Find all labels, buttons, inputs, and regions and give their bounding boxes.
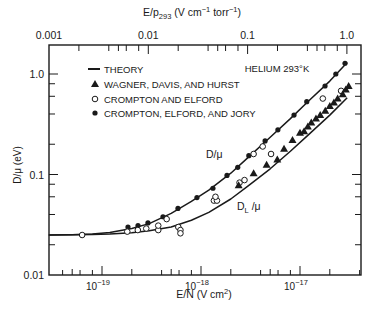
triangle-marker-icon [273,156,281,163]
open-circle-marker-icon [155,223,161,229]
legend-label: CROMPTON, ELFORD, AND JORY [104,108,256,119]
open-circle-marker-icon [135,227,141,233]
y-tick-label: 0.1 [29,169,44,181]
annotation-d-over-mu: D/μ [206,148,223,160]
y-tick-label: 1.0 [29,68,44,80]
y-tick-label: 0.01 [24,269,45,281]
triangle-marker-icon [280,145,288,152]
open-circle-marker-icon [143,226,149,232]
annotation-dl-over-mu: DL /μ [237,200,261,215]
chart-title: HELIUM 293°K [245,63,310,74]
filled-circle-marker-icon [194,195,199,200]
open-circle-marker-icon [213,194,219,200]
x-tick-label: 10−19 [86,278,110,292]
triangle-marker-icon [289,136,297,143]
legend: THEORYWAGNER, DAVIS, AND HURSTCROMPTON A… [88,64,256,119]
open-circle-marker-icon [178,230,184,236]
filled-circle-marker-icon [291,112,296,117]
triangle-marker-icon [263,161,271,168]
open-circle-marker-icon [79,232,85,238]
triangle-marker-icon [250,169,258,176]
filled-circle-marker-icon [322,83,327,88]
top-tick-label: 1.0 [340,29,355,41]
top-tick-label: 0.001 [36,29,62,41]
filled-circle-marker-icon [333,71,338,76]
y-tick-labels: 0.010.11.0 [24,68,45,281]
legend-label: WAGNER, DAVIS, AND HURST [104,79,240,90]
filled-circle-marker-icon [262,138,267,143]
open-circle-marker-icon [251,151,257,157]
open-circle-legend-icon [92,96,98,102]
top-tick-label: 0.01 [138,29,159,41]
filled-circle-marker-icon [210,186,215,191]
top-axis-title: E/p293 (V cm−1 torr−1) [143,5,241,21]
filled-circle-marker-icon [224,173,229,178]
filled-circle-marker-icon [145,220,150,225]
open-circle-marker-icon [268,151,274,157]
x-tick-label: 10−17 [284,278,308,292]
top-tick-labels: 0.0010.010.11.0 [36,29,354,41]
filled-circle-marker-icon [342,61,347,66]
legend-label: THEORY [104,64,144,75]
open-circle-marker-icon [242,177,248,183]
triangle-marker-icon [345,82,353,89]
filled-circle-marker-icon [175,206,180,211]
open-circle-marker-icon [124,229,130,235]
top-tick-label: 0.1 [240,29,255,41]
triangle-legend-icon [91,80,99,87]
chart-figure: E/p293 (V cm−1 torr−1) 0.0010.010.11.0 0… [0,0,380,315]
open-circle-marker-icon [320,96,326,102]
x-axis-title: E/N (V cm2) [176,287,232,300]
filled-circle-marker-icon [275,127,280,132]
legend-label: CROMPTON AND ELFORD [104,94,223,105]
open-circle-marker-icon [164,216,170,222]
filled-circle-marker-icon [235,165,240,170]
y-axis-title: D/μ (eV) [12,146,23,183]
open-circle-marker-icon [260,144,266,150]
filled-circle-marker-icon [304,99,309,104]
filled-circle-legend-icon [92,110,97,115]
